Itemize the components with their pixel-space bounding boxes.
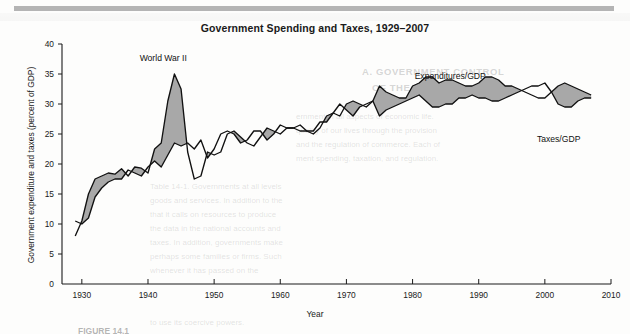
chart-axes [58, 44, 611, 284]
y-tick-label: 10 [0, 219, 54, 229]
x-tick-label: 2010 [595, 290, 627, 300]
y-tick-label: 15 [0, 189, 54, 199]
x-tick-label: 2000 [529, 290, 561, 300]
y-tick-label: 5 [0, 249, 54, 259]
x-tick-label: 1980 [397, 290, 429, 300]
x-tick-label: 1990 [463, 290, 495, 300]
x-tick-label: 1940 [132, 290, 164, 300]
x-tick-label: 1930 [66, 290, 98, 300]
x-tick-label: 1950 [198, 290, 230, 300]
scanned-page: A. GOVERNMENT CONTROL OF THE ECONOMY ern… [0, 0, 630, 334]
chart-annotation: Taxes/GDP [537, 134, 580, 144]
y-tick-label: 40 [0, 39, 54, 49]
x-axis-title: Year [0, 309, 630, 319]
x-tick-label: 1960 [264, 290, 296, 300]
y-tick-label: 25 [0, 129, 54, 139]
deficit-shading [81, 74, 591, 224]
y-tick-label: 35 [0, 69, 54, 79]
y-tick-label: 30 [0, 99, 54, 109]
chart-annotation: Expenditures/GDP [415, 71, 486, 81]
figure-caption: FIGURE 14.1 [78, 326, 129, 334]
x-tick-label: 1970 [330, 290, 362, 300]
chart-annotation: World War II [140, 53, 187, 63]
y-tick-label: 0 [0, 279, 54, 289]
expenditures-line [75, 74, 591, 236]
chart-plot-area [0, 0, 630, 334]
taxes-line [75, 83, 591, 224]
y-tick-label: 20 [0, 159, 54, 169]
